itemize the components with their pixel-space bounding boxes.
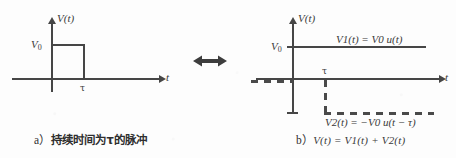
panel-a-pulse-rising-edge — [51, 44, 53, 80]
panel-a-y-tick-v: V — [31, 38, 38, 50]
panel-b-equation-v1: V1(t) = V0 u(t) — [336, 33, 402, 45]
v1-rhs: (t) = V — [348, 33, 378, 45]
panel-b-y-axis-label: V(t) — [298, 13, 315, 24]
panel-b-decomposition: V0 V(t) t τ V1(t) = V0 u(t) V2(t) = −V0 … — [240, 0, 456, 158]
panel-b-caption-marker: b） — [296, 134, 313, 146]
panel-a-caption-marker: a） — [34, 134, 51, 146]
panel-a-pulse: V(t) t V0 τ a）持续时间为τ的脉冲 — [0, 0, 190, 158]
panel-a-x-axis-arrow-icon — [159, 75, 166, 83]
panel-b-caption-equation: V(t) = V1(t) + V2(t) — [313, 134, 405, 146]
panel-a-caption: a）持续时间为τ的脉冲 — [34, 131, 148, 147]
v1-tail: u(t) — [384, 33, 403, 45]
cap-t3: (t) — [394, 134, 405, 146]
panel-b-equation-v2: V2(t) = −V0 u(t − τ) — [325, 116, 416, 128]
panel-a-x-tick-label-tau: τ — [80, 84, 85, 93]
panel-b-y-tick-negative-v0 — [287, 112, 298, 114]
panel-a-x-axis — [12, 78, 160, 80]
panel-b-y-tick-v: V — [271, 40, 278, 52]
panel-b-v2-zero-level — [251, 80, 293, 83]
panel-b-x-tick-label-tau: τ — [322, 67, 327, 76]
panel-b-x-axis-label: t — [445, 72, 448, 83]
cap-t1: (t) = V — [320, 134, 351, 146]
panel-b-y-tick-zero: 0 — [278, 45, 282, 54]
panel-a-y-axis-arrow-icon — [48, 17, 56, 24]
panel-a-caption-text: 持续时间为τ的脉冲 — [51, 133, 148, 147]
v2-rhs: (t) = −V — [337, 116, 374, 128]
panel-a-pulse-falling-edge — [83, 44, 85, 80]
panel-a-y-axis-label: V(t) — [57, 13, 74, 24]
panel-b-y-tick-label-v0: V0 — [271, 41, 282, 54]
panel-a-y-tick-label: V0 — [31, 39, 42, 52]
panel-b-caption: b）V(t) = V1(t) + V2(t) — [296, 131, 405, 147]
cap-t2: (t) + V — [357, 134, 388, 146]
panel-a-y-tick-zero: 0 — [38, 43, 42, 52]
panel-b-v1-plateau — [292, 46, 426, 48]
panel-b-v2-falling-edge — [324, 80, 327, 114]
v2-tail: u(t − τ) — [380, 116, 416, 128]
panel-a-x-axis-label: t — [166, 72, 169, 83]
double-headed-arrow-icon — [193, 54, 227, 68]
figure-pulse-decomposition: V(t) t V0 τ a）持续时间为τ的脉冲 V0 — [0, 0, 456, 158]
panel-b-v1-rising-edge — [292, 46, 294, 78]
panel-b-y-axis-arrow-icon — [289, 17, 297, 24]
panel-a-pulse-plateau — [51, 44, 85, 46]
v1-lhs: V — [336, 33, 343, 45]
v2-lhs: V — [325, 116, 332, 128]
panel-b-v2-negative-level — [324, 112, 434, 115]
panel-b-y-tick-v0 — [287, 46, 298, 48]
